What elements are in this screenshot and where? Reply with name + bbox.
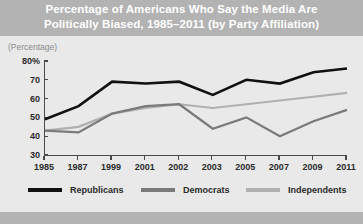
x-axis-tick: [245, 156, 246, 160]
legend-swatch-republicans: [28, 188, 62, 192]
x-axis-tick: [345, 156, 346, 160]
y-axis-tick-label: 60: [10, 94, 40, 104]
x-axis-tick-label: 2002: [168, 162, 188, 172]
x-axis-tick-label: 1999: [101, 162, 121, 172]
x-axis-tick-label: 2007: [269, 162, 289, 172]
x-axis-tick: [144, 156, 145, 160]
title-band: Percentage of Americans Who Say the Medi…: [0, 0, 363, 36]
chart-title: Percentage of Americans Who Say the Medi…: [0, 2, 363, 32]
chart-figure: Percentage of Americans Who Say the Medi…: [0, 0, 363, 224]
x-axis-tick: [178, 156, 179, 160]
figure-bottom-bar: [0, 212, 363, 224]
x-axis-tick: [312, 156, 313, 160]
legend-label-republicans: Republicans: [70, 185, 124, 195]
legend-item-democrats: Democrats: [141, 183, 230, 197]
y-axis-labels: 304050607080%: [4, 61, 40, 155]
series-line-republicans: [45, 69, 347, 120]
legend-label-democrats: Democrats: [183, 185, 230, 195]
chart-title-line-2: Politically Biased, 1985–2011 (by Party …: [0, 17, 363, 32]
y-axis-tick-label: 80%: [10, 56, 40, 66]
legend-label-independents: Independents: [288, 185, 347, 195]
x-axis-tick-label: 1987: [68, 162, 88, 172]
y-axis-tick-label: 30: [10, 150, 40, 160]
plot-area: [44, 61, 347, 156]
y-axis-unit-note: (Percentage): [8, 42, 57, 52]
legend-item-independents: Independents: [246, 183, 347, 197]
x-axis-tick: [278, 156, 279, 160]
y-axis-tick-label: 50: [10, 112, 40, 122]
legend-item-republicans: Republicans: [28, 183, 124, 197]
x-axis-tick: [110, 156, 111, 160]
chart-title-line-1: Percentage of Americans Who Say the Medi…: [0, 2, 363, 17]
x-axis-tick-label: 2003: [202, 162, 222, 172]
series-lines: [45, 61, 347, 155]
x-axis-tick-label: 2011: [336, 162, 356, 172]
x-axis-tick-label: 2009: [302, 162, 322, 172]
series-line-democrats: [45, 104, 347, 136]
x-axis-labels: 1985198719992001200220032005200720092011: [44, 162, 348, 176]
y-axis-tick-label: 70: [10, 75, 40, 85]
x-axis-tick-label: 2001: [135, 162, 155, 172]
x-axis-tick: [77, 156, 78, 160]
x-axis-tick: [211, 156, 212, 160]
y-axis-tick-label: 40: [10, 131, 40, 141]
legend: Republicans Democrats Independents: [0, 178, 363, 208]
x-axis-tick: [43, 156, 44, 160]
legend-swatch-independents: [246, 188, 280, 192]
x-axis-tick-label: 1985: [34, 162, 54, 172]
x-axis-tick-label: 2005: [235, 162, 255, 172]
legend-swatch-democrats: [141, 188, 175, 192]
